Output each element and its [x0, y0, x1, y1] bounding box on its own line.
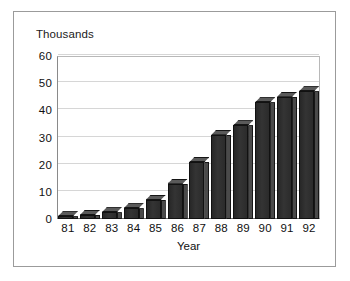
bar-side-face [204, 162, 209, 219]
y-axis-tick-label: 10 [6, 186, 52, 198]
y-axis-tick-labels: 0102030405060 [4, 56, 52, 219]
bar-83 [102, 207, 122, 219]
bar-side-face [248, 125, 253, 219]
bar-side-face [226, 135, 231, 219]
x-axis-tick-label: 84 [127, 222, 140, 234]
bar-front-face [80, 215, 95, 219]
x-axis-tick-label: 92 [302, 222, 315, 234]
x-axis-tick-label: 81 [61, 222, 74, 234]
x-axis-tick-label: 83 [105, 222, 118, 234]
bar-front-face [277, 97, 292, 219]
bar-81 [58, 211, 78, 219]
y-axis-tick-label: 40 [6, 104, 52, 116]
gridline [58, 54, 319, 55]
chart-figure: Thousands 0102030405060 8182838485868788… [0, 0, 350, 281]
x-axis-tick-label: 91 [281, 222, 294, 234]
bar-86 [168, 179, 188, 219]
x-axis-tick-label: 87 [193, 222, 206, 234]
bar-front-face [255, 102, 270, 219]
bar-front-face [211, 135, 226, 219]
bar-89 [233, 120, 253, 219]
x-axis-tick-label: 82 [83, 222, 96, 234]
bar-90 [255, 97, 275, 219]
y-axis-tick-label: 60 [6, 50, 52, 62]
bar-side-face [117, 212, 122, 219]
x-axis-tick-label: 86 [171, 222, 184, 234]
bar-side-face [139, 208, 144, 219]
bar-side-face [314, 91, 319, 219]
bar-front-face [58, 216, 73, 219]
bar-92 [299, 86, 319, 219]
bar-side-face [183, 184, 188, 219]
bar-front-face [168, 184, 183, 219]
bar-front-face [189, 162, 204, 219]
bar-side-face [161, 200, 166, 219]
bar-front-face [233, 125, 248, 219]
bar-91 [277, 92, 297, 219]
y-axis-tick-label: 0 [6, 213, 52, 225]
bars-layer [57, 56, 320, 219]
bar-85 [146, 195, 166, 219]
chart-title: Thousands [36, 28, 94, 40]
bar-side-face [270, 102, 275, 219]
y-axis-tick-label: 20 [6, 159, 52, 171]
bar-87 [189, 157, 209, 219]
bar-84 [124, 203, 144, 219]
bar-front-face [146, 200, 161, 219]
bar-side-face [292, 97, 297, 219]
x-axis-tick-label: 88 [215, 222, 228, 234]
bar-side-face [73, 216, 78, 219]
x-axis-tick-label: 90 [259, 222, 272, 234]
bar-front-face [299, 91, 314, 219]
x-axis-title: Year [57, 240, 320, 252]
bar-front-face [124, 208, 139, 219]
bar-82 [80, 210, 100, 219]
bar-front-face [102, 212, 117, 219]
bar-side-face [95, 215, 100, 219]
x-axis-tick-label: 85 [149, 222, 162, 234]
x-axis-tick-label: 89 [237, 222, 250, 234]
y-axis-tick-label: 30 [6, 132, 52, 144]
x-axis-tick-labels: 818283848586878889909192 [57, 222, 320, 238]
y-axis-tick-label: 50 [6, 77, 52, 89]
bar-88 [211, 130, 231, 219]
